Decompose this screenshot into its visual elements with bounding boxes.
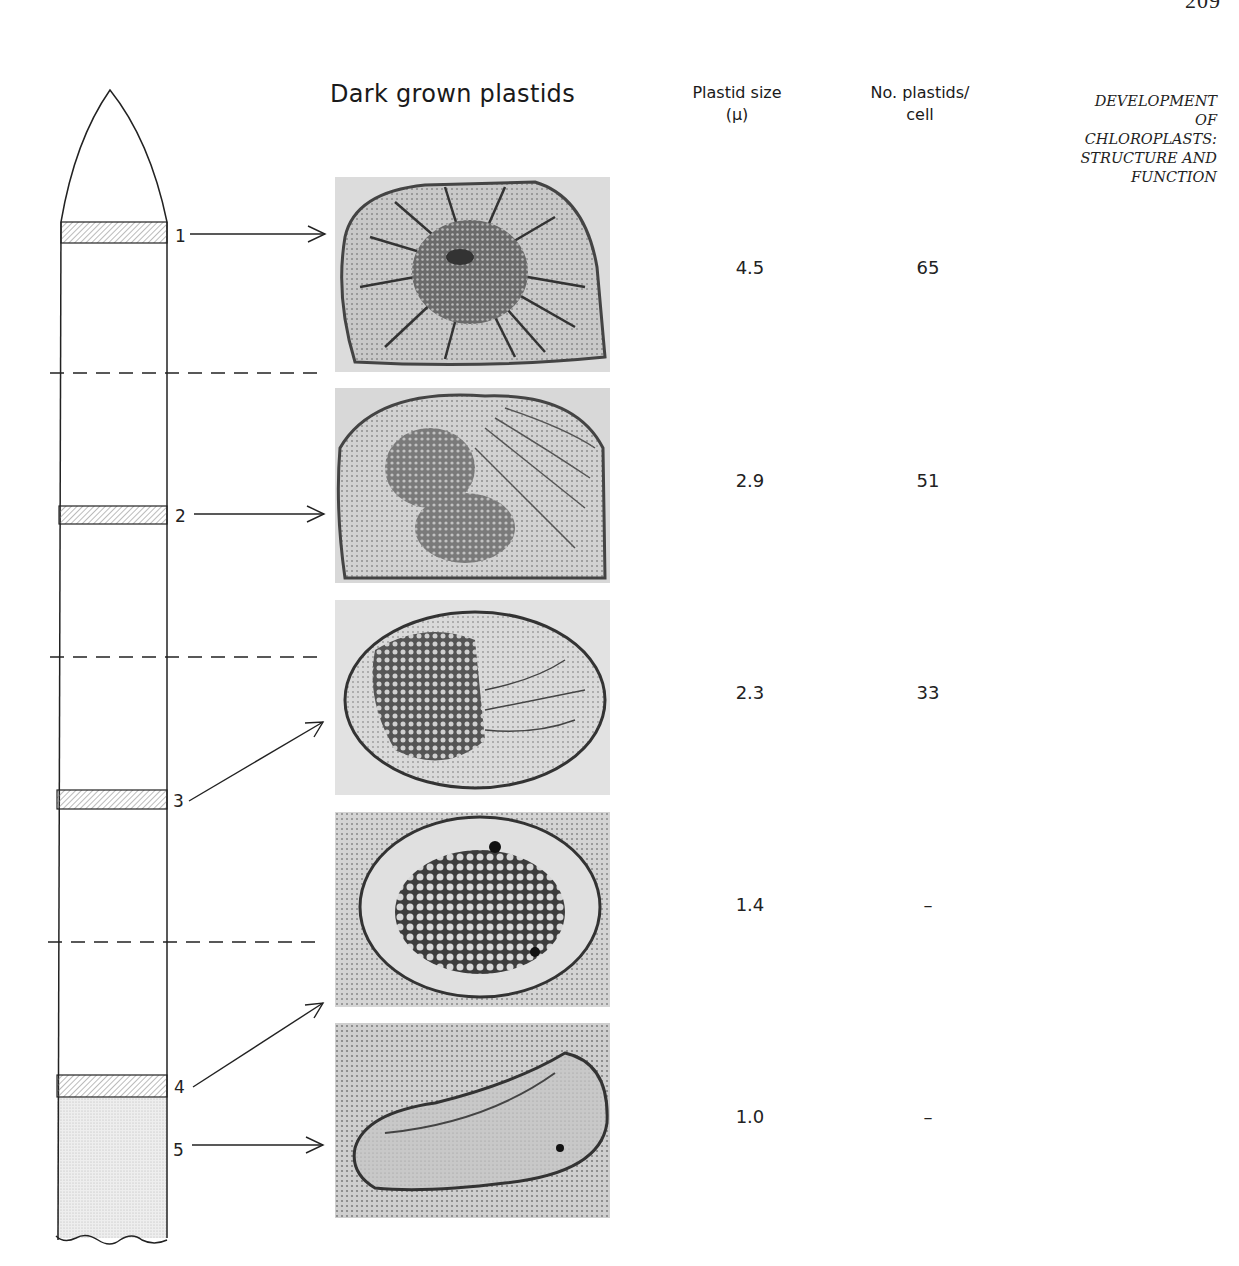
root-cap <box>61 90 167 222</box>
zone-label: 3 <box>173 791 184 811</box>
running-head-line: OF <box>1017 111 1217 130</box>
plastid-size-value: 2.9 <box>700 470 800 491</box>
column-header-plastid-size: Plastid size (μ) <box>662 82 812 126</box>
column-header-line: Plastid size <box>662 82 812 104</box>
column-header-line: No. plastids/ <box>855 82 985 104</box>
zone-3-band <box>57 790 167 809</box>
running-head-line: STRUCTURE AND <box>1017 149 1217 168</box>
arrow-icon <box>192 1137 323 1153</box>
arrow-icon <box>193 1003 323 1087</box>
zone-label: 5 <box>173 1140 184 1160</box>
running-head-line: CHLOROPLASTS: <box>1017 130 1217 149</box>
micrograph-zone-5 <box>335 1023 610 1218</box>
plastid-count-value: 51 <box>878 470 978 491</box>
zone-label: 2 <box>175 506 186 526</box>
zone-1-band <box>61 222 167 243</box>
plastid-count-value: 65 <box>878 257 978 278</box>
zone-label: 4 <box>174 1077 185 1097</box>
plastid-size-value: 4.5 <box>700 257 800 278</box>
arrow-icon <box>190 226 325 242</box>
micrograph-zone-1 <box>335 177 610 372</box>
plastid-count-value: – <box>878 894 978 915</box>
plastid-count-value: – <box>878 1106 978 1127</box>
running-head-line: DEVELOPMENT <box>1017 92 1217 111</box>
zone-label: 1 <box>175 226 186 246</box>
running-head: DEVELOPMENT OF CHLOROPLASTS: STRUCTURE A… <box>1017 92 1217 187</box>
arrow-icon <box>194 506 324 522</box>
micrograph-zone-2 <box>335 388 610 583</box>
figure-title: Dark grown plastids <box>330 80 575 108</box>
page-number: 209 <box>1185 0 1221 14</box>
plastid-size-value: 2.3 <box>700 682 800 703</box>
zone-5-region <box>57 1098 167 1238</box>
column-header-plastids-per-cell: No. plastids/ cell <box>855 82 985 126</box>
plastid-count-value: 33 <box>878 682 978 703</box>
zone-2-band <box>59 506 167 524</box>
micrograph-zone-3 <box>335 600 610 795</box>
column-header-line: (μ) <box>662 104 812 126</box>
column-header-line: cell <box>855 104 985 126</box>
plastid-size-value: 1.4 <box>700 894 800 915</box>
plastid-size-value: 1.0 <box>700 1106 800 1127</box>
running-head-line: FUNCTION <box>1017 168 1217 187</box>
root-tip-diagram: 1 2 3 4 5 <box>0 0 340 1266</box>
micrograph-zone-4 <box>335 812 610 1007</box>
zone-4-band <box>57 1075 167 1097</box>
arrow-icon <box>189 722 323 801</box>
